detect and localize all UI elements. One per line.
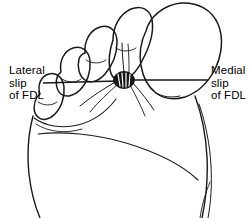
foot-anatomy-illustration bbox=[0, 0, 249, 218]
medial-label-line-1: Medial bbox=[211, 64, 246, 77]
medial-label-line-3: of FDL bbox=[211, 89, 246, 102]
medial-label-line-2: slip bbox=[211, 77, 246, 90]
lateral-slip-label: Lateral slip of FDL bbox=[9, 64, 45, 102]
fdl-slip-figure: Lateral slip of FDL Medial slip of FDL bbox=[0, 0, 249, 218]
tendon-insertion-body bbox=[114, 72, 135, 89]
medial-slip-label: Medial slip of FDL bbox=[211, 64, 246, 102]
lateral-label-line-2: slip bbox=[9, 77, 45, 90]
lateral-label-line-1: Lateral bbox=[9, 64, 45, 77]
lateral-label-line-3: of FDL bbox=[9, 89, 45, 102]
fdl-tendon-insertion bbox=[114, 72, 135, 89]
